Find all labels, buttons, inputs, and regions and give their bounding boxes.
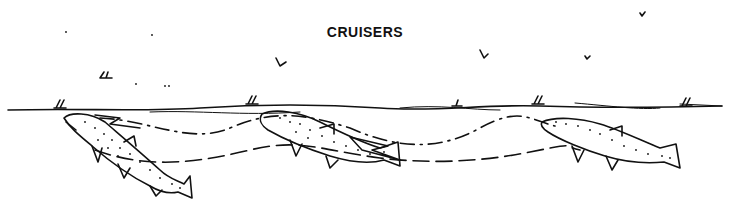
mayfly-on-surface: [54, 96, 692, 108]
trout-right: [541, 118, 680, 170]
mayfly-in-air: [100, 12, 645, 78]
specks: [65, 31, 170, 87]
water-surface-line: [8, 103, 722, 113]
cruisers-illustration: [0, 0, 730, 212]
dashed-cruise-path-upper: [100, 116, 555, 145]
trout-middle: [260, 111, 400, 168]
